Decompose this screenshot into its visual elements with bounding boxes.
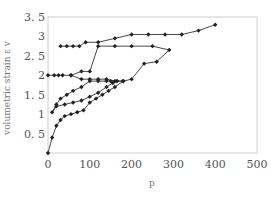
- diamond-marker: [65, 44, 69, 48]
- chart: 0. 511. 522. 533. 5 0100200300400500 p v…: [0, 0, 276, 198]
- diamond-marker: [213, 23, 217, 27]
- y-tick-label: 3: [38, 30, 45, 43]
- diamond-marker: [79, 98, 83, 102]
- series-cycle-2: [46, 44, 172, 83]
- x-tick-label: 100: [79, 158, 100, 171]
- diamond-marker: [71, 89, 75, 93]
- y-tick-label: 3. 5: [24, 11, 45, 24]
- diamond-marker: [88, 94, 92, 98]
- diamond-marker: [88, 69, 92, 73]
- diamond-marker: [94, 96, 98, 100]
- diamond-marker: [60, 73, 64, 77]
- diamond-marker: [150, 44, 154, 48]
- diamond-marker: [129, 32, 133, 36]
- diamond-marker: [56, 73, 60, 77]
- diamond-marker: [65, 93, 69, 97]
- x-axis-ticks: 0100200300400500: [45, 158, 268, 171]
- plot-frame: [48, 17, 257, 153]
- x-tick-label: 0: [45, 158, 52, 171]
- diamond-marker: [96, 44, 100, 48]
- y-axis-ticks: 0. 511. 522. 533. 5: [24, 11, 45, 141]
- diamond-marker: [46, 73, 50, 77]
- y-tick-label: 0. 5: [24, 128, 45, 141]
- x-axis-label: p: [149, 178, 155, 188]
- diamond-marker: [75, 110, 79, 114]
- series-unload-reload-1: [50, 79, 125, 114]
- series-loading-1: [46, 79, 126, 155]
- y-tick-label: 1: [38, 108, 45, 121]
- y-axis-label: volumetric strain ε v: [2, 40, 12, 136]
- diamond-marker: [196, 28, 200, 32]
- x-tick-label: 300: [163, 158, 184, 171]
- diamond-marker: [63, 102, 67, 106]
- diamond-marker: [71, 100, 75, 104]
- diamond-marker: [50, 135, 54, 139]
- diamond-marker: [100, 93, 104, 97]
- y-tick-label: 2. 5: [24, 50, 45, 63]
- diamond-marker: [69, 112, 73, 116]
- diamond-marker: [71, 44, 75, 48]
- y-tick-label: 2: [38, 69, 45, 82]
- diamond-marker: [58, 44, 62, 48]
- x-tick-label: 400: [205, 158, 226, 171]
- x-tick-label: 200: [121, 158, 142, 171]
- diamond-marker: [46, 151, 50, 155]
- diamond-marker: [96, 40, 100, 44]
- diamond-marker: [146, 32, 150, 36]
- diamond-marker: [69, 73, 73, 77]
- diamond-marker: [113, 36, 117, 40]
- diamond-marker: [113, 44, 117, 48]
- series-cycle-3: [58, 23, 217, 49]
- diamond-marker: [106, 89, 110, 93]
- diamond-marker: [180, 32, 184, 36]
- diamond-marker: [129, 44, 133, 48]
- diamond-marker: [79, 77, 83, 81]
- diamond-marker: [52, 73, 56, 77]
- y-tick-label: 1. 5: [24, 89, 45, 102]
- diamond-marker: [77, 44, 81, 48]
- data-series: [46, 23, 218, 156]
- diamond-marker: [79, 69, 83, 73]
- diamond-marker: [163, 32, 167, 36]
- x-tick-label: 500: [247, 158, 268, 171]
- diamond-marker: [83, 40, 87, 44]
